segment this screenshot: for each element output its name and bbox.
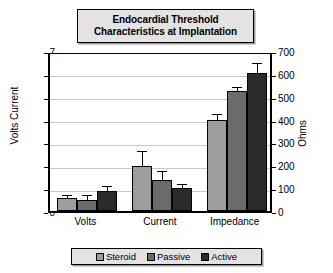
chart-legend: SteroidPassiveActive [71, 248, 262, 265]
error-bar [257, 64, 258, 73]
y-tick-label-right: 100 [278, 185, 312, 195]
legend-label: Active [211, 252, 237, 262]
bar [97, 191, 117, 211]
error-bar [217, 115, 218, 120]
x-tick-label: Volts [48, 216, 123, 227]
y-tick-mark-right [272, 213, 276, 214]
bar [77, 200, 97, 211]
y-tick-label-right: 400 [278, 117, 312, 127]
y-tick-mark-right [272, 144, 276, 145]
y-tick-mark-right [272, 122, 276, 123]
y-tick-label-right: 700 [278, 48, 312, 58]
y-tick-label-right: 300 [278, 139, 312, 149]
legend-item: Steroid [96, 252, 136, 262]
bar [247, 73, 267, 211]
chart-title: Endocardial Threshold Characteristics at… [77, 9, 254, 43]
legend-item: Passive [147, 252, 190, 262]
gridline [50, 76, 270, 77]
error-bar [87, 196, 88, 200]
error-bar-cap [102, 186, 112, 187]
y-tick-mark-right [272, 53, 276, 54]
y-tick-mark-right [272, 167, 276, 168]
legend-label: Steroid [106, 252, 136, 262]
legend-swatch [96, 253, 104, 261]
bar [57, 198, 77, 211]
error-bar [107, 187, 108, 191]
error-bar-cap [82, 195, 92, 196]
bar [132, 166, 152, 211]
bar [172, 188, 192, 211]
x-tick-label: Impedance [197, 216, 272, 227]
y-tick-mark-right [272, 99, 276, 100]
y-tick-mark-right [272, 76, 276, 77]
error-bar-cap [252, 63, 262, 64]
legend-item: Active [201, 252, 237, 262]
chart-figure: Endocardial Threshold Characteristics at… [0, 0, 333, 273]
y-tick-label-right: 200 [278, 162, 312, 172]
error-bar-cap [212, 114, 222, 115]
error-bar-cap [137, 151, 147, 152]
error-bar [237, 88, 238, 91]
error-bar [162, 172, 163, 180]
y-tick-label-right: 500 [278, 94, 312, 104]
error-bar [182, 185, 183, 187]
error-bar [67, 196, 68, 198]
x-tick-label: Current [123, 216, 198, 227]
y-tick-mark-left [44, 213, 48, 214]
plot-area [48, 53, 272, 213]
bar [207, 120, 227, 211]
error-bar [142, 152, 143, 167]
error-bar-cap [177, 184, 187, 185]
y-tick-mark-right [272, 190, 276, 191]
y-tick-label-right: 600 [278, 71, 312, 81]
error-bar-cap [62, 195, 72, 196]
bar [152, 180, 172, 211]
bar [227, 91, 247, 211]
chart-title-line-1: Endocardial Threshold [80, 14, 251, 26]
error-bar-cap [232, 87, 242, 88]
chart-title-line-2: Characteristics at Implantation [80, 26, 251, 38]
y-tick-label-right: 0 [278, 208, 312, 218]
legend-swatch [147, 253, 155, 261]
legend-swatch [201, 253, 209, 261]
error-bar-cap [157, 171, 167, 172]
y-axis-label-left: Volts Current [9, 56, 20, 176]
legend-label: Passive [157, 252, 190, 262]
